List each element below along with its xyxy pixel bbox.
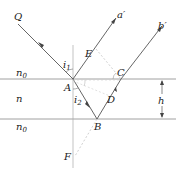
label-film-medium: n	[16, 93, 22, 104]
label-b-prime: b′	[158, 20, 167, 31]
label-d: D	[106, 94, 115, 105]
label-a-prime: a′	[117, 9, 126, 20]
angle-c-arc	[113, 73, 116, 79]
thickness-arrow-top-icon	[160, 80, 164, 85]
incident-ray	[18, 24, 73, 79]
label-e: E	[84, 48, 93, 59]
label-a: A	[63, 82, 71, 93]
thin-film-diagram: Q a′ b′ E C A D B F h i1 i2 n0 n n0	[0, 0, 176, 170]
label-top-medium: n0	[16, 67, 27, 80]
reflected-ray-a	[73, 18, 116, 79]
reflected-arrow-a-icon	[111, 18, 116, 24]
label-h: h	[158, 95, 164, 106]
angle-i2-arc	[73, 88, 78, 89]
angle-a-arc	[84, 80, 85, 86]
thickness-arrow-bottom-icon	[160, 113, 164, 118]
label-i2: i2	[74, 94, 82, 107]
reflected-ray-b	[121, 26, 162, 79]
label-c: C	[117, 67, 125, 78]
label-bottom-medium: n0	[16, 121, 27, 134]
label-q: Q	[14, 11, 22, 22]
label-b: B	[93, 121, 101, 132]
upward-arrow-icon	[114, 87, 117, 92]
refracted-arrow-icon	[85, 101, 90, 108]
label-f: F	[63, 151, 72, 162]
